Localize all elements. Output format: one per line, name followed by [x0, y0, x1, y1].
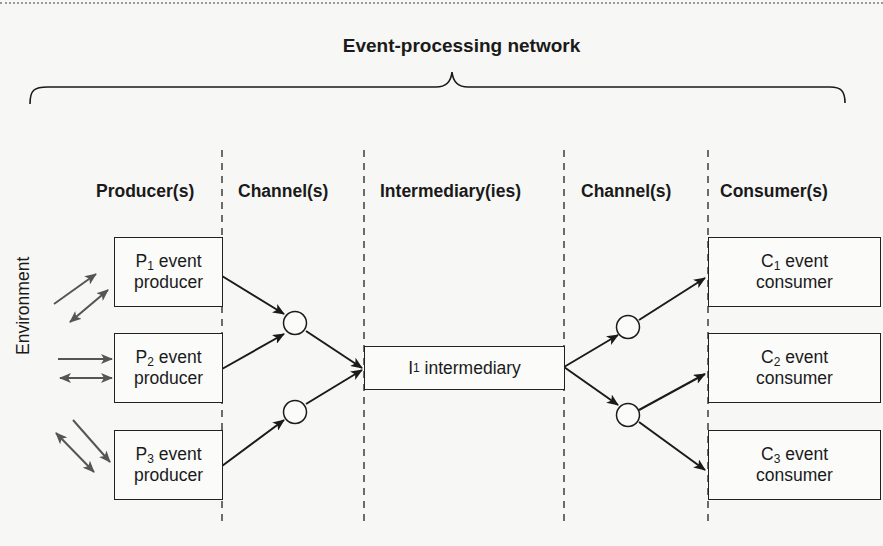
channel-node-2 [284, 401, 307, 424]
consumer-box-3: C3 event consumer [708, 430, 881, 500]
consumer-box-1: C1 event consumer [708, 237, 881, 307]
producer-box-1: P1 event producer [114, 237, 223, 307]
column-header-producers: Producer(s) [96, 181, 194, 202]
network-brace [30, 72, 845, 104]
producer-box-3: P3 event producer [114, 430, 223, 500]
column-header-channels-in: Channel(s) [238, 181, 328, 202]
column-header-channels-out: Channel(s) [581, 181, 671, 202]
column-separators [222, 150, 708, 526]
channel-node-4 [617, 404, 640, 427]
consumer-box-2: C2 event consumer [708, 333, 881, 403]
intermediary-consumer-arrows [564, 278, 705, 470]
intermediary-box: I1 intermediary [364, 346, 565, 390]
diagram-title: Event-processing network [20, 35, 883, 57]
channel-node-1 [284, 312, 307, 335]
environment-label: Environment [13, 257, 34, 355]
producer-channel-arrows [222, 276, 362, 466]
column-header-intermediaries: Intermediary(ies) [380, 181, 521, 202]
column-header-consumers: Consumer(s) [720, 181, 828, 202]
environment-arrows [54, 274, 112, 472]
channel-node-3 [617, 316, 640, 339]
producer-box-2: P2 event producer [114, 333, 223, 403]
